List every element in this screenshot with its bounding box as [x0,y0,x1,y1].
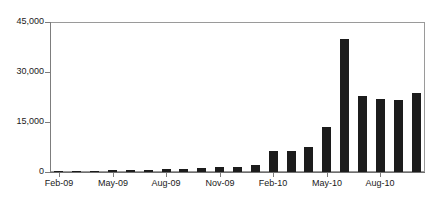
bar [90,171,99,172]
x-axis-tick-label: Aug-10 [365,179,394,188]
bar [358,96,367,172]
bar [126,170,135,172]
x-axis-tick-label: Aug-09 [151,179,180,188]
x-axis-tick [327,173,328,177]
bar [144,170,153,172]
y-axis-tick [45,172,50,173]
bar [233,167,242,172]
bar [108,170,117,172]
bar [340,39,349,172]
x-axis-tick-label: Feb-10 [259,179,288,188]
bar [376,99,385,172]
x-axis-tick [59,173,60,177]
x-axis-tick [220,173,221,177]
bar [304,147,313,172]
y-axis-tick-label: 45,000 [2,17,44,26]
bar [162,169,171,172]
x-axis-tick-label: Feb-09 [45,179,74,188]
x-axis-tick-label: May-10 [312,179,342,188]
y-axis-tick [45,22,50,23]
y-axis-tick-label: 15,000 [2,117,44,126]
bar [54,171,63,172]
y-axis-tick-label: 30,000 [2,67,44,76]
bar [287,151,296,172]
x-axis-tick [273,173,274,177]
x-axis-tick [380,173,381,177]
bar [412,93,421,172]
x-axis-tick-label: Nov-09 [205,179,234,188]
bar [394,100,403,172]
x-axis-tick [113,173,114,177]
bar [179,169,188,172]
bar [72,171,81,172]
y-axis-tick [45,72,50,73]
y-axis-tick-label: 0 [2,167,44,176]
bar-chart: 015,00030,00045,000 Feb-09May-09Aug-09No… [0,0,442,209]
bar [215,167,224,172]
x-axis-tick [166,173,167,177]
bar [269,151,278,172]
bar [197,168,206,172]
x-axis-tick-label: May-09 [98,179,128,188]
y-axis-labels: 015,00030,00045,000 [0,0,44,209]
bar [251,165,260,172]
bar [322,127,331,172]
y-axis-tick [45,122,50,123]
bars-layer [50,22,425,172]
category-axis-line [50,172,425,173]
